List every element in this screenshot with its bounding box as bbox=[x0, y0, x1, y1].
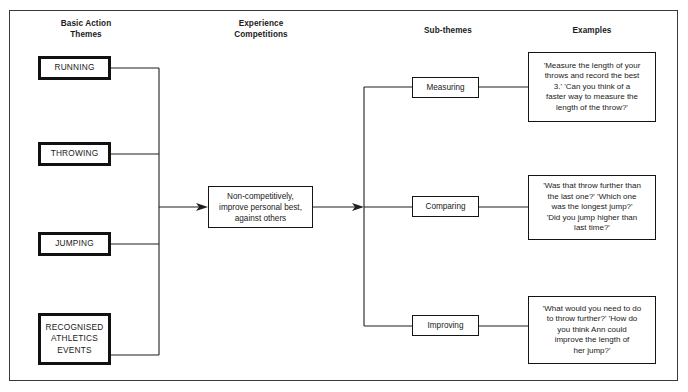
column-heading-sub-themes: Sub-themes bbox=[402, 26, 494, 37]
sub-theme-box-improving: Improving bbox=[412, 315, 479, 336]
theme-box-throwing: THROWING bbox=[38, 142, 111, 166]
column-heading-experience-competitions: Experience Competitions bbox=[212, 19, 310, 40]
theme-box-running: RUNNING bbox=[38, 56, 111, 80]
theme-box-recognised-athletics-events: RECOGNISED ATHLETICS EVENTS bbox=[38, 313, 111, 365]
example-box-improving: 'What would you need to do to throw furt… bbox=[528, 296, 656, 364]
column-heading-examples: Examples bbox=[540, 26, 644, 37]
flowchart-canvas: Basic Action Themes Experience Competiti… bbox=[0, 0, 688, 392]
experience-competitions-box: Non-competitively, improve personal best… bbox=[208, 186, 313, 228]
example-box-comparing: 'Was that throw further than the last on… bbox=[528, 175, 656, 240]
column-heading-basic-action-themes: Basic Action Themes bbox=[38, 19, 134, 40]
sub-theme-box-comparing: Comparing bbox=[412, 196, 479, 217]
example-box-measuring: 'Measure the length of your throws and r… bbox=[528, 52, 656, 122]
theme-box-jumping: JUMPING bbox=[38, 232, 111, 256]
sub-theme-box-measuring: Measuring bbox=[412, 77, 479, 98]
